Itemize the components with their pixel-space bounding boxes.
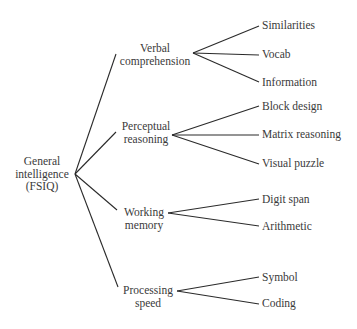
root-node-fsiq: General intelligence (FSIQ) [15, 155, 69, 193]
factor-label-line1: Perceptual [122, 120, 171, 133]
subtest-digit-span: Digit span [262, 193, 310, 206]
subtest-visual-puzzle: Visual puzzle [262, 157, 324, 170]
subtest-symbol: Symbol [262, 271, 298, 284]
root-label-line1: General [15, 155, 69, 168]
factor-verbal-comprehension: Verbal comprehension [120, 42, 190, 67]
factor-processing-speed: Processing speed [123, 284, 173, 309]
subtest-block-design: Block design [262, 100, 322, 113]
edge-root-processing [75, 174, 118, 287]
edge-root-verbal [75, 54, 116, 174]
factor-label-line1: Working [124, 206, 164, 219]
subtest-information: Information [262, 76, 317, 89]
root-label-line3: (FSIQ) [15, 180, 69, 193]
subtest-arithmetic: Arithmetic [262, 220, 312, 233]
factor-label-line2: comprehension [120, 55, 190, 68]
subtest-coding: Coding [262, 297, 296, 310]
factor-label-line1: Processing [123, 284, 173, 297]
root-label-line2: intelligence [15, 168, 69, 181]
subtest-vocab: Vocab [262, 48, 291, 61]
factor-label-line1: Verbal [120, 42, 190, 55]
subtest-similarities: Similarities [262, 19, 315, 32]
factor-label-line2: speed [123, 297, 173, 310]
factor-label-line2: memory [124, 219, 164, 232]
factor-perceptual-reasoning: Perceptual reasoning [122, 120, 171, 145]
factor-working-memory: Working memory [124, 206, 164, 231]
subtest-matrix-reasoning: Matrix reasoning [262, 128, 341, 141]
edge-root-perceptual [75, 132, 116, 174]
factor-label-line2: reasoning [122, 133, 171, 146]
